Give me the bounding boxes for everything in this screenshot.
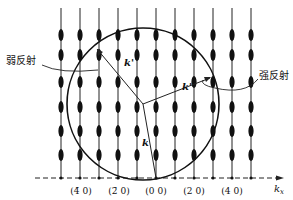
lattice-point bbox=[211, 176, 214, 179]
rod-intensity-oval bbox=[210, 29, 215, 41]
rod-intensity-oval bbox=[115, 49, 120, 61]
rod-intensity-oval bbox=[229, 29, 234, 41]
rod-intensity-oval bbox=[229, 125, 234, 137]
rod-intensity-oval bbox=[96, 101, 101, 113]
rod-intensity-oval bbox=[210, 149, 215, 161]
rod-intensity-oval bbox=[210, 49, 215, 61]
rod-intensity-oval bbox=[77, 76, 82, 88]
rod-intensity-oval bbox=[191, 49, 196, 61]
rod-intensity-oval bbox=[77, 29, 82, 41]
rod-intensity-oval bbox=[115, 101, 120, 113]
rod-intensity-oval bbox=[172, 149, 177, 161]
tick-label-neg4-0: (4̄ 0) bbox=[70, 186, 91, 196]
rod-intensity-oval bbox=[153, 29, 158, 41]
rod-intensity-oval bbox=[172, 101, 177, 113]
lattice-point bbox=[173, 176, 176, 179]
rod-intensity-oval bbox=[191, 101, 196, 113]
rod-intensity-oval bbox=[115, 125, 120, 137]
tick-label-2-0: (2 0) bbox=[183, 186, 204, 196]
rod-intensity-oval bbox=[58, 29, 63, 41]
rod-intensity-oval bbox=[191, 76, 196, 88]
rod-intensity-oval bbox=[229, 76, 234, 88]
rod-intensity-oval bbox=[96, 149, 101, 161]
rod-intensity-oval bbox=[153, 149, 158, 161]
rod-intensity-oval bbox=[96, 76, 101, 88]
rod-intensity-oval bbox=[153, 49, 158, 61]
rod-intensity-oval bbox=[96, 29, 101, 41]
lattice-point bbox=[78, 176, 81, 179]
lattice-point bbox=[230, 176, 233, 179]
rod-intensity-oval bbox=[248, 101, 253, 113]
rod-intensity-oval bbox=[58, 149, 63, 161]
k-prime-left-label: k' bbox=[124, 57, 134, 68]
rod-intensity-oval bbox=[229, 49, 234, 61]
rod-intensity-oval bbox=[58, 125, 63, 137]
kx-axis-label: kx bbox=[274, 183, 284, 196]
strong-reflection-label: 强反射 bbox=[259, 70, 289, 81]
rod-intensity-oval bbox=[229, 101, 234, 113]
rod-intensity-oval bbox=[172, 125, 177, 137]
rod-intensity-oval bbox=[229, 149, 234, 161]
k-prime-right-arrow-icon bbox=[204, 77, 211, 82]
tick-label-4-0: (4 0) bbox=[221, 186, 242, 196]
rod-intensity-oval bbox=[77, 125, 82, 137]
lattice-point bbox=[59, 176, 62, 179]
rod-intensity-oval bbox=[58, 49, 63, 61]
ewald-sphere-diagram: k' k' k 弱反射 强反射 (4̄ 0) (2̄ 0) (0 0) (2 0… bbox=[0, 0, 293, 200]
rod-intensity-oval bbox=[58, 76, 63, 88]
lattice-point bbox=[97, 176, 100, 179]
rod-intensity-oval bbox=[191, 125, 196, 137]
rod-intensity-oval bbox=[153, 101, 158, 113]
lattice-point bbox=[192, 176, 195, 179]
tick-label-neg2-0: (2̄ 0) bbox=[108, 186, 129, 196]
rod-intensity-oval bbox=[134, 149, 139, 161]
rod-intensity-oval bbox=[96, 125, 101, 137]
rod-intensity-oval bbox=[115, 149, 120, 161]
rod-intensity-oval bbox=[248, 125, 253, 137]
k-prime-right-label: k' bbox=[182, 81, 192, 92]
rod-intensity-oval bbox=[134, 125, 139, 137]
rod-intensity-oval bbox=[134, 76, 139, 88]
rod-intensity-oval bbox=[58, 101, 63, 113]
tick-label-0-0: (0 0) bbox=[145, 186, 166, 196]
weak-reflection-leader bbox=[42, 65, 98, 71]
rod-intensity-oval bbox=[134, 101, 139, 113]
rod-intensity-oval bbox=[77, 101, 82, 113]
rod-intensity-oval bbox=[210, 101, 215, 113]
rod-intensity-oval bbox=[172, 49, 177, 61]
rod-intensity-oval bbox=[115, 76, 120, 88]
rod-intensity-oval bbox=[77, 149, 82, 161]
weak-reflection-label: 弱反射 bbox=[6, 55, 36, 66]
lattice-point bbox=[249, 176, 252, 179]
rod-intensity-oval bbox=[134, 29, 139, 41]
rod-intensity-oval bbox=[153, 76, 158, 88]
rod-intensity-oval bbox=[191, 29, 196, 41]
rod-intensity-oval bbox=[248, 149, 253, 161]
rod-intensity-oval bbox=[248, 49, 253, 61]
rod-intensity-oval bbox=[248, 29, 253, 41]
k-label: k bbox=[142, 137, 149, 148]
rod-intensity-oval bbox=[134, 49, 139, 61]
rod-intensity-oval bbox=[153, 125, 158, 137]
rod-intensity-oval bbox=[172, 76, 177, 88]
kx-axis-arrow-icon bbox=[276, 176, 284, 181]
